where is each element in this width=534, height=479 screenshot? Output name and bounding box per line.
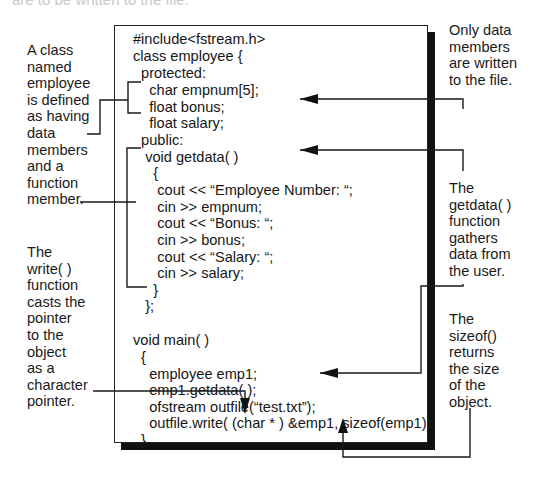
class-annotation-connector <box>87 100 128 134</box>
write-connector <box>93 391 245 404</box>
arrowhead-left-icon <box>300 145 318 155</box>
arrowhead-up-icon <box>338 418 348 433</box>
getdata-arrow-line <box>300 150 463 171</box>
data-members-bracket <box>128 82 141 113</box>
callout-lines <box>0 0 534 479</box>
arrowhead-left-icon <box>320 368 338 378</box>
sizeof-arrow-line <box>343 408 470 457</box>
getdata-bracket <box>127 148 147 287</box>
data-members-arrow-line <box>300 99 463 109</box>
arrowhead-down-icon <box>240 398 250 414</box>
arrowhead-left-icon <box>300 94 318 104</box>
getdata-call-arrow-line <box>320 284 463 373</box>
